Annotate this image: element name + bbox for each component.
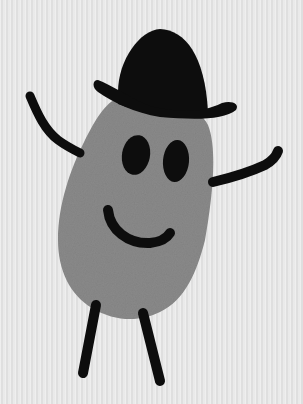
drawing (0, 0, 303, 404)
left-arm (30, 96, 80, 153)
right-arm (213, 151, 278, 182)
right-leg (143, 313, 160, 381)
thumbprint-body (58, 96, 213, 319)
left-leg (83, 305, 96, 373)
thumbprint-character-image: Thumbprint character drawing: a gray fin… (0, 0, 303, 404)
